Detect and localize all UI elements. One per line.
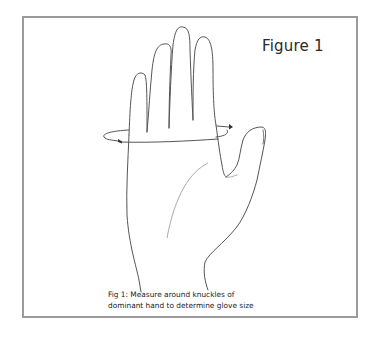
figure-caption: Fig 1: Measure around knuckles of domina… [108, 289, 254, 311]
thumb [204, 127, 265, 290]
hand-illustration [0, 0, 377, 337]
pinky-finger [129, 73, 147, 135]
hand-outline-right [216, 125, 226, 177]
measurement-arrow-right [217, 126, 229, 127]
caption-line-2: dominant hand to determine glove size [108, 300, 254, 311]
thumb-tip-detail [263, 130, 264, 144]
palm-crease [167, 163, 208, 238]
ring-finger [147, 44, 171, 132]
caption-line-1: Fig 1: Measure around knuckles of [108, 289, 254, 300]
measurement-loop-back [104, 130, 129, 141]
middle-finger [169, 27, 193, 128]
measurement-loop-main [121, 139, 218, 142]
index-finger [193, 37, 216, 125]
hand-outline-left [127, 135, 141, 292]
arrow-head-left-icon [118, 139, 122, 144]
arrow-head-right-icon [229, 124, 233, 130]
